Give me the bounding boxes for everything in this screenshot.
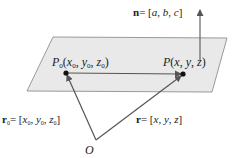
r0-label: r0= [x0, y0, z0] [2,113,60,126]
r-label: r= [x, y, z] [136,113,182,125]
origin-label: O [85,143,94,157]
point-p [180,71,185,76]
p-label: P(x, y, z) [162,55,206,69]
point-p0 [63,70,68,75]
plane-diagram: n= [a, b, c] P0(x0, y0, z0) P(x, y, z) r… [0,0,232,158]
normal-label: n= [a, b, c] [133,6,182,18]
